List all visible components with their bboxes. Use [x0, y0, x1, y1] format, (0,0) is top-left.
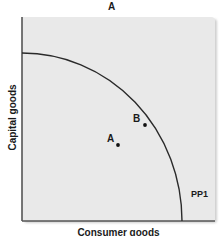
point-a-label: A [107, 133, 114, 144]
curve-label-pp1: PP1 [191, 189, 208, 199]
chart-canvas [0, 0, 223, 236]
ppf-curve-pp1 [22, 53, 182, 221]
x-axis-label: Consumer goods [22, 227, 215, 236]
y-axis-label: Capital goods [7, 78, 18, 158]
point-b-label: B [133, 113, 140, 124]
point-a-marker [116, 143, 120, 147]
point-b-marker [143, 123, 147, 127]
